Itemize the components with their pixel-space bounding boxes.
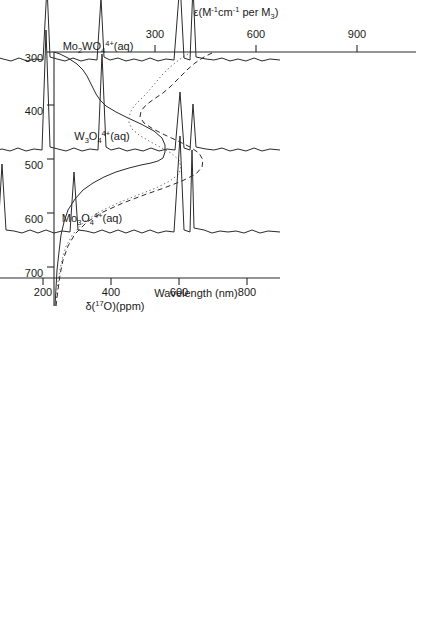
lbl3-c: (aq) bbox=[114, 40, 134, 52]
nmr-trace-3 bbox=[0, 0, 280, 61]
nmr-tick-600: 600 bbox=[170, 286, 188, 298]
nmr-panel: 0 200 400 600 800 δ(17O)(ppm) bbox=[0, 0, 320, 313]
figure-canvas: 300 400 500 600 700 300 600 900 Waveleng… bbox=[0, 0, 446, 633]
delta-part: δ( bbox=[85, 300, 95, 312]
nmr-series-label-3: Mo2WO44+(aq) bbox=[63, 39, 134, 55]
svg-text:W3O44+(aq): W3O44+(aq) bbox=[74, 129, 129, 145]
delta-o: O)(ppm) bbox=[104, 300, 145, 312]
nmr-tick-800: 800 bbox=[238, 286, 256, 298]
lbl2-a: W bbox=[74, 130, 85, 142]
lbl1-c: (aq) bbox=[103, 212, 123, 224]
nmr-tick-200: 200 bbox=[34, 286, 52, 298]
lbl3-b: WO bbox=[82, 40, 101, 52]
uvvis-ytick-900: 900 bbox=[348, 28, 366, 40]
nmr-plot: 0 200 400 600 800 δ(17O)(ppm) bbox=[0, 0, 320, 313]
lbl2-c: (aq) bbox=[110, 130, 130, 142]
svg-text:δ(17O)(ppm): δ(17O)(ppm) bbox=[85, 299, 144, 312]
lbl3-a: Mo bbox=[63, 40, 78, 52]
nmr-trace-2 bbox=[0, 30, 280, 151]
delta-sup: 17 bbox=[95, 299, 103, 308]
lbl1-a: Mo bbox=[62, 212, 77, 224]
nmr-ticklabels: 0 200 400 600 800 bbox=[0, 286, 256, 298]
nmr-ticks bbox=[0, 278, 247, 285]
svg-text:Mo2WO44+(aq): Mo2WO44+(aq) bbox=[63, 39, 134, 55]
nmr-series-label-2: W3O44+(aq) bbox=[74, 129, 129, 145]
nmr-tick-400: 400 bbox=[102, 286, 120, 298]
nmr-x-axis-label: δ(17O)(ppm) bbox=[85, 299, 144, 312]
